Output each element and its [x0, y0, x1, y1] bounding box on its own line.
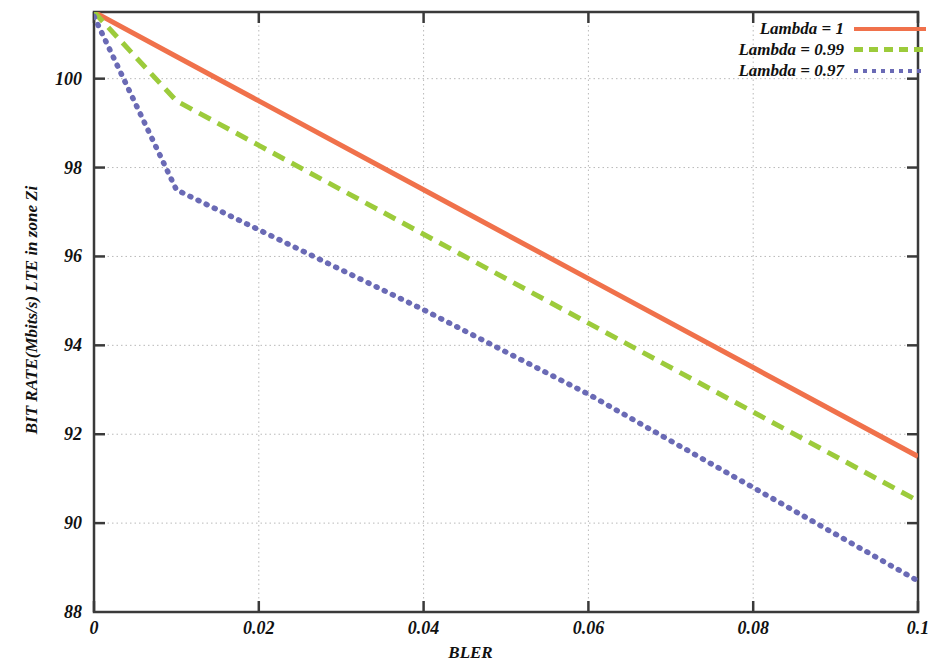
- legend-item: Lambda = 1: [694, 18, 926, 39]
- y-tick-label: 90: [20, 513, 82, 534]
- x-tick-label: 0.1: [878, 618, 941, 639]
- gridlines: [94, 12, 918, 612]
- axis-ticks: [94, 12, 918, 612]
- y-tick-label: 100: [20, 68, 82, 89]
- x-tick-label: 0.08: [713, 618, 793, 639]
- x-tick-label: 0.04: [384, 618, 464, 639]
- legend-item: Lambda = 0.97: [694, 60, 926, 81]
- chart-figure: 889092949698100 00.020.040.060.080.1 BIT…: [0, 0, 941, 669]
- legend-label: Lambda = 1: [760, 19, 844, 39]
- plot-canvas: [0, 0, 941, 669]
- plot-frame: [94, 12, 918, 612]
- series-line: [94, 12, 918, 501]
- series-line: [94, 16, 918, 580]
- legend-label: Lambda = 0.99: [738, 40, 844, 60]
- legend-label: Lambda = 0.97: [738, 61, 844, 81]
- chart-legend: Lambda = 1 Lambda = 0.99 Lambda = 0.97: [690, 14, 932, 85]
- x-axis-title: BLER: [0, 643, 941, 663]
- x-tick-label: 0: [54, 618, 134, 639]
- x-tick-label: 0.06: [548, 618, 628, 639]
- data-series-layer: [94, 12, 918, 581]
- legend-swatch-dotted: [854, 65, 926, 77]
- legend-swatch-dashed: [854, 44, 926, 56]
- y-axis-title: BIT RATE(Mbits/s) LTE in zone Zi: [22, 160, 42, 460]
- legend-item: Lambda = 0.99: [694, 39, 926, 60]
- x-tick-label: 0.02: [219, 618, 299, 639]
- legend-swatch-solid: [854, 23, 926, 35]
